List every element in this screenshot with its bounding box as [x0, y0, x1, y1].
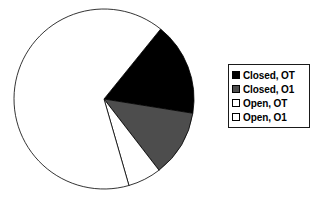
legend-label-closed-ot: Closed, OT: [243, 70, 295, 81]
pie-slice-group: [14, 9, 194, 189]
legend-item-open-ot[interactable]: Open, OT: [232, 96, 305, 110]
pie-chart-figure: Closed, OT Closed, O1 Open, OT Open, O1: [0, 0, 319, 198]
legend-item-closed-o1[interactable]: Closed, O1: [232, 82, 305, 96]
legend-item-open-o1[interactable]: Open, O1: [232, 110, 305, 124]
legend-label-open-ot: Open, OT: [243, 98, 287, 109]
legend-item-closed-ot[interactable]: Closed, OT: [232, 68, 305, 82]
legend-label-open-o1: Open, O1: [243, 112, 287, 123]
legend-swatch-open-o1: [232, 113, 240, 121]
legend-swatch-closed-ot: [232, 71, 240, 79]
legend-label-closed-o1: Closed, O1: [243, 84, 294, 95]
chart-legend: Closed, OT Closed, O1 Open, OT Open, O1: [228, 64, 310, 128]
legend-swatch-open-ot: [232, 99, 240, 107]
legend-swatch-closed-o1: [232, 85, 240, 93]
